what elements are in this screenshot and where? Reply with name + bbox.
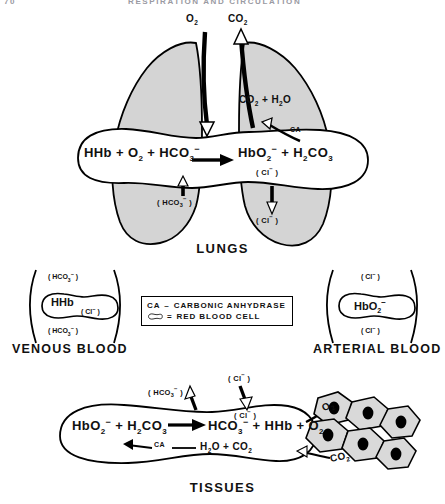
ca-lungs-label: CA: [290, 126, 301, 133]
lungs-equation-left: HHb + O2 + HCO3−: [84, 144, 200, 163]
lungs-cl-ion-label-upper: ( Cl− ): [256, 166, 278, 177]
legend-row-rbc: = RED BLOOD CELL: [147, 311, 286, 322]
tissues-cl-in-label-inner: ( Cl− ): [234, 409, 256, 420]
arterial-vessel-wall-left: [327, 270, 333, 343]
venous-ion-top: ( HCO3− ): [48, 271, 78, 283]
venous-ion-bottom: ( HCO3− ): [48, 325, 78, 337]
tissue-cell-nucleus: [396, 416, 405, 427]
tissue-cell-nucleus: [323, 429, 332, 440]
legend-rbc-equals: =: [167, 312, 173, 321]
tissues-figure: HbO2− + H2CO3 HCO3− + HHb + O2 CA H2O + …: [0, 378, 445, 504]
arterial-blood-label: ARTERIAL BLOOD: [313, 342, 441, 356]
page-header: 70 RESPIRATION AND CIRCULATION: [0, 0, 445, 10]
legend-enzyme-abbr: CA: [147, 301, 160, 310]
legend-enzyme-dash: –: [164, 301, 169, 310]
tissues-hco3-out-arrow: [185, 386, 196, 410]
venous-vessel-wall-left: [30, 270, 36, 343]
page-number: 70: [4, 0, 16, 6]
running-title: RESPIRATION AND CIRCULATION: [128, 0, 301, 6]
tissues-equation-right: HCO3− + HHb + O2: [208, 417, 324, 436]
co2-h2o-label: CO2 + H2O: [239, 94, 291, 107]
tissue-cell-nucleus: [363, 407, 372, 418]
tissues-equation-left: HbO2− + H2CO3: [72, 417, 167, 436]
lungs-equation-right: HbO2− + H2CO3: [238, 144, 333, 163]
legend-rbc-name: RED BLOOD CELL: [177, 312, 261, 321]
arterial-cell-main: HbO2−: [354, 298, 386, 314]
tissues-cl-in-label-outer: ( Cl− ): [228, 372, 250, 383]
tissue-cell-nucleus: [391, 448, 400, 459]
red-blood-cell-icon: [147, 313, 163, 320]
tissues-hco3-out-label: ( HCO3− ): [148, 386, 183, 398]
ca-tissues-label: CA: [154, 441, 165, 448]
co2-outflow-label: CO2: [228, 13, 248, 26]
legend-row-enzyme: CA – CARBONIC ANHYDRASE: [147, 300, 286, 311]
lungs-artwork: [0, 10, 445, 265]
arterial-ion-bottom: ( Cl− ): [361, 325, 380, 334]
lungs-title: LUNGS: [0, 241, 445, 256]
legend-enzyme-name: CARBONIC ANHYDRASE: [174, 301, 286, 310]
arterial-ion-top: ( Cl− ): [361, 271, 380, 280]
o2-inflow-label: O2: [186, 13, 198, 26]
lungs-hco3-ion-label: ( HCO3− ): [157, 196, 192, 208]
tissues-reverse-products: H2O + CO2: [200, 441, 252, 454]
co2-arrowhead: [234, 29, 248, 44]
venous-blood-label: VENOUS BLOOD: [12, 342, 128, 356]
lungs-figure: O2 CO2 CO2 + H2O CA HHb + O2 + HCO3− HbO…: [0, 10, 445, 265]
venous-cell-sub: ( Cl− ): [81, 306, 100, 315]
tissues-title: TISSUES: [0, 480, 445, 495]
legend-box: CA – CARBONIC ANHYDRASE = RED BLOOD CELL: [141, 296, 293, 326]
venous-cell-main: HHb: [51, 296, 74, 308]
lungs-cl-ion-label-lower: ( Cl− ): [256, 214, 278, 225]
tissue-cell-nucleus: [358, 438, 367, 449]
